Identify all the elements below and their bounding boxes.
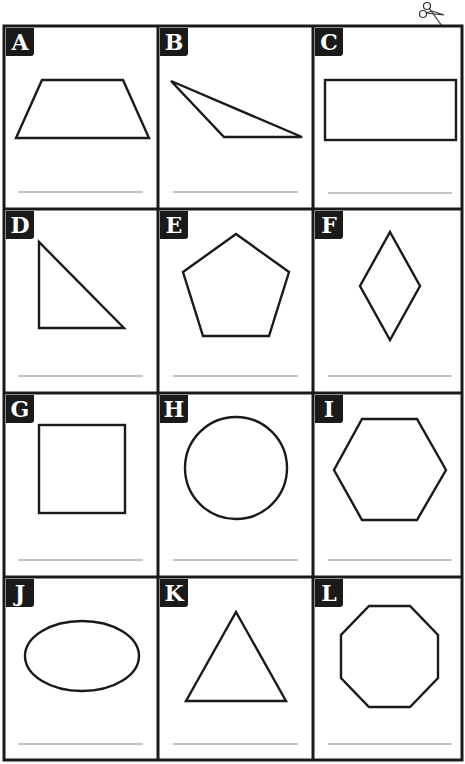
obtuse-triangle-shape: [171, 81, 302, 137]
cell-label-h: H: [160, 395, 188, 423]
octagon-shape: [341, 606, 438, 707]
shapes-worksheet: A B C D E F G H I J K L: [0, 0, 465, 764]
cell-label-d: D: [6, 211, 34, 239]
hexagon-shape: [334, 419, 446, 520]
cell-label-f: F: [315, 211, 343, 239]
cell-label-b: B: [160, 28, 188, 56]
pentagon-shape: [183, 234, 289, 336]
oval-shape: [25, 621, 139, 691]
cell-label-i: I: [315, 395, 343, 423]
cell-label-g: G: [6, 395, 34, 423]
worksheet-grid: [0, 0, 465, 764]
cell-label-k: K: [160, 579, 188, 607]
cell-label-a: A: [6, 28, 34, 56]
square-shape: [39, 425, 125, 513]
cell-label-l: L: [315, 579, 343, 607]
triangle-shape: [186, 612, 286, 701]
circle-shape: [185, 417, 287, 519]
trapezoid-shape: [16, 80, 149, 138]
rhombus-shape: [360, 232, 420, 340]
cell-label-j: J: [6, 579, 34, 607]
cell-label-c: C: [315, 28, 343, 56]
cell-label-e: E: [160, 211, 188, 239]
right-triangle-shape: [39, 242, 124, 328]
rectangle-shape: [325, 80, 456, 140]
